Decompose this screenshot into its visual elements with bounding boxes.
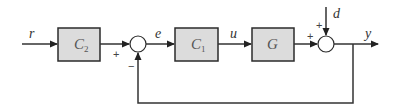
label-e: e	[155, 26, 161, 41]
summing-junction-error	[130, 36, 146, 52]
block-diagram: r C2 + − e C1 u G + d + y	[0, 0, 395, 111]
block-c1: C1	[175, 28, 218, 61]
block-c2: C2	[58, 28, 100, 61]
label-y: y	[363, 26, 372, 41]
summing-junction-output	[318, 36, 334, 52]
sign-plus-c2: +	[113, 48, 119, 60]
sign-plus-d: +	[316, 19, 322, 31]
block-g-label: G	[267, 36, 278, 52]
label-d: d	[333, 6, 341, 21]
feedback-path	[138, 44, 353, 103]
block-g: G	[252, 28, 294, 61]
sign-plus-g: +	[307, 30, 313, 42]
label-u: u	[230, 26, 237, 41]
sign-minus-feedback: −	[128, 60, 134, 72]
label-r: r	[29, 26, 35, 41]
